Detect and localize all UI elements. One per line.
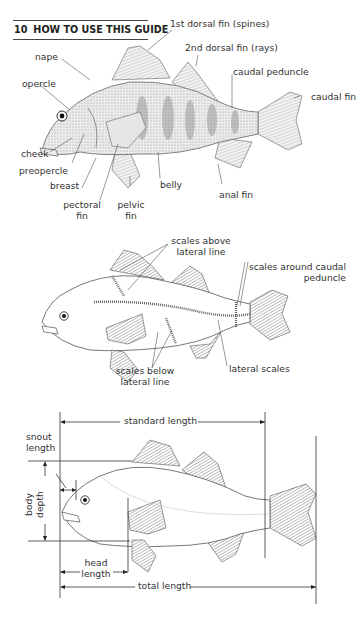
label-belly: belly — [160, 180, 182, 191]
caudal-fin — [258, 92, 302, 150]
label-caudal-peduncle: caudal peduncle — [233, 67, 309, 78]
fig2-caudal-fin — [250, 290, 290, 340]
anal-fin — [215, 138, 252, 168]
first-dorsal-fin — [112, 46, 170, 80]
label-first-dorsal-fin: 1st dorsal fin (spines) — [170, 19, 269, 30]
label-opercle: opercle — [22, 79, 56, 90]
label-pelvic-fin: pelvicfin — [116, 200, 146, 221]
fig2-dorsal-spines — [110, 250, 164, 280]
label-scales-above-lateral-line: scales abovelateral line — [168, 236, 234, 257]
figure1-perch-illustration — [0, 0, 359, 619]
label-snout-length: snoutlength — [26, 432, 55, 453]
label-pectoral-fin: pectoralfin — [60, 200, 104, 221]
fig3-dorsal-spines — [132, 440, 180, 466]
label-total-length: total length — [138, 581, 191, 592]
fig2-body — [42, 276, 250, 351]
label-scales-below-lateral-line: scales belowlateral line — [112, 366, 178, 387]
label-standard-length: standard length — [124, 416, 197, 427]
label-cheek: cheek — [21, 149, 49, 160]
label-preopercle: preopercle — [19, 166, 68, 177]
label-anal-fin: anal fin — [219, 190, 253, 201]
label-breast: breast — [50, 181, 79, 192]
label-body-depth: bodydepth — [24, 483, 45, 527]
fig3-body — [62, 467, 270, 547]
label-caudal-fin: caudal fin — [311, 92, 356, 103]
label-second-dorsal-fin: 2nd dorsal fin (rays) — [185, 43, 278, 54]
fig3-caudal-fin — [270, 484, 316, 546]
label-scales-around-caudal-peduncle: scales around caudalpeduncle — [240, 262, 346, 283]
label-nape: nape — [35, 52, 58, 63]
label-head-length: headlength — [78, 558, 114, 579]
label-lateral-scales: lateral scales — [229, 364, 290, 375]
